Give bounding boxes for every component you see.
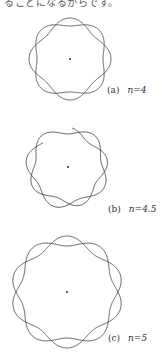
nucleus-dot-a	[69, 58, 71, 60]
figure-b-n-value: n=4.5	[129, 204, 157, 214]
figure-b-letter: (b)	[108, 204, 121, 214]
wave-curve-b	[26, 128, 107, 207]
figure-a-n-value: n=4	[127, 85, 146, 95]
figure-b-orbit-diagram	[26, 128, 107, 207]
figure-c-caption: (c)n=5	[108, 333, 147, 343]
nucleus-dot-b	[67, 166, 69, 168]
figure-c-n-value: n=5	[128, 333, 147, 343]
standing-wave-figures	[0, 0, 167, 360]
figure-a-letter: (a)	[107, 85, 119, 95]
figure-a-caption: (a)n=4	[107, 85, 146, 95]
figure-b-caption: (b)n=4.5	[108, 204, 156, 214]
nucleus-dot-c	[66, 291, 68, 293]
figure-a-orbit-diagram	[29, 18, 111, 100]
figure-c-orbit-diagram	[13, 236, 121, 348]
figure-c-letter: (c)	[108, 333, 120, 343]
